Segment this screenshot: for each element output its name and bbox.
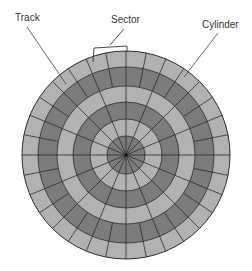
cylinder-label: Cylinder bbox=[202, 19, 239, 30]
disk-diagram: Track Sector Cylinder bbox=[0, 0, 252, 271]
platter bbox=[22, 51, 230, 259]
cylinder-callout: Cylinder bbox=[184, 19, 239, 77]
track-label: Track bbox=[15, 12, 41, 23]
sector-label: Sector bbox=[111, 14, 141, 25]
track-callout: Track bbox=[15, 12, 66, 84]
spindle-center bbox=[125, 154, 128, 157]
